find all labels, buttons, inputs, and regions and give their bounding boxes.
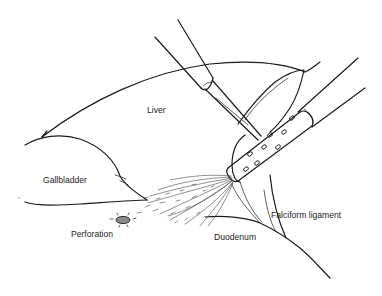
probe-shaft (155, 37, 201, 88)
illustration-canvas (0, 0, 382, 296)
label-duodenum: Duodenum (214, 233, 256, 242)
duodenum-outline (205, 216, 330, 278)
label-perforation: Perforation (71, 230, 113, 239)
label-gallbladder: Gallbladder (43, 176, 87, 185)
liver-outline (42, 62, 305, 137)
irrigation-cannula (227, 58, 365, 181)
irrigation-spray (137, 175, 233, 226)
gallbladder-outline-bottom (25, 200, 147, 205)
label-falciform-ligament: Falciform ligament (271, 211, 341, 220)
tissue-flap (238, 70, 304, 132)
gallbladder-outline-top (25, 136, 147, 200)
perforation-mark (110, 213, 136, 227)
surgical-illustration: Liver Gallbladder Perforation Duodenum F… (0, 0, 382, 296)
label-liver: Liver (147, 106, 166, 115)
